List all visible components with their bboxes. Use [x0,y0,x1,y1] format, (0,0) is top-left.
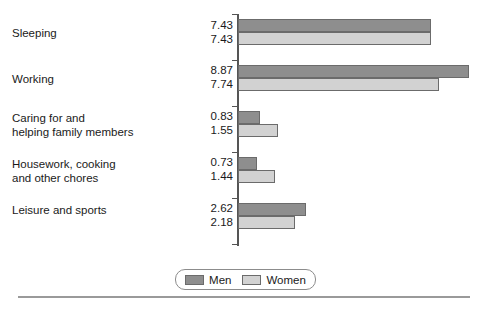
bar-women [238,216,295,229]
legend-item-women: Women [242,274,305,286]
category-label: Caring for and helping family members [12,111,182,139]
value-label-women: 7.43 [189,33,233,46]
value-label-men: 2.62 [189,202,233,215]
bar-men [238,157,257,170]
axis-tick [232,14,237,15]
axis-tick [232,60,237,61]
axis-tick [232,244,237,245]
footer-divider [18,296,470,298]
category-label: Sleeping [12,26,182,40]
bar-women [238,170,275,183]
legend-label-men: Men [209,274,231,286]
chart-legend: Men Women [175,269,316,290]
value-label-men: 8.87 [189,64,233,77]
legend-label-women: Women [266,274,305,286]
bar-men [238,203,306,216]
value-label-men: 0.73 [189,156,233,169]
axis-tick [232,152,237,153]
category-label: Housework, cooking and other chores [12,157,182,185]
plot-area [237,14,488,246]
bar-men [238,111,260,124]
bar-men [238,65,469,78]
value-label-women: 1.44 [189,170,233,183]
value-label-women: 7.74 [189,78,233,91]
legend-item-men: Men [185,274,231,286]
value-label-men: 0.83 [189,110,233,123]
bar-men [238,19,431,32]
chart-figure: Sleeping Working Caring for and helping … [0,0,488,310]
axis-tick [232,106,237,107]
bar-women [238,124,278,137]
bar-women [238,78,439,91]
category-label: Working [12,72,182,86]
women-swatch-icon [242,275,261,285]
axis-tick [232,198,237,199]
value-label-men: 7.43 [189,19,233,32]
value-label-women: 2.18 [189,216,233,229]
category-label: Leisure and sports [12,203,182,217]
men-swatch-icon [185,275,204,285]
bar-women [238,32,431,45]
value-label-women: 1.55 [189,124,233,137]
